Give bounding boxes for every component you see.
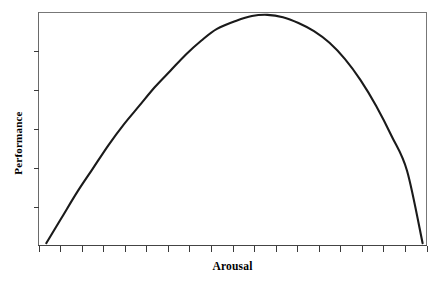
x-axis-ticks bbox=[40, 246, 428, 252]
x-axis-title: Arousal bbox=[38, 259, 427, 273]
chart-figure: Performance Arousal bbox=[0, 0, 438, 286]
y-axis-title: Performance bbox=[8, 0, 28, 286]
plot-canvas bbox=[0, 0, 438, 286]
plot-background bbox=[38, 12, 427, 246]
